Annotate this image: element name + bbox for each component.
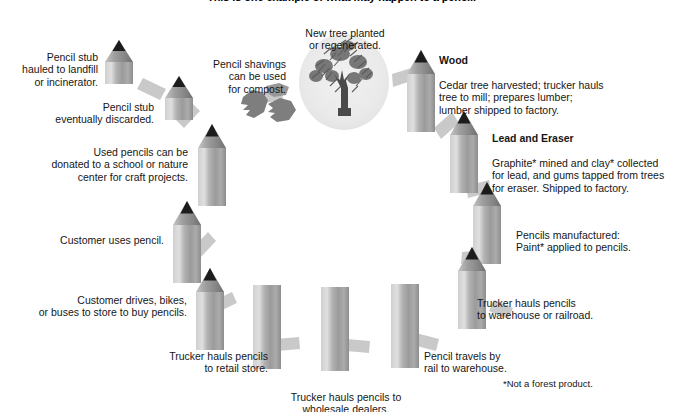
label-stub-landfill: Pencil stub hauled to landfill or incine… (6, 38, 98, 88)
label-retail-body: Trucker hauls pencils to retail store. (169, 350, 268, 375)
footnote: *Not a forest product. (503, 378, 593, 389)
pencil-icon-rail (391, 284, 419, 368)
label-retail: Trucker hauls pencils to retail store. (138, 337, 268, 375)
pencil-icon-donated (198, 124, 226, 206)
label-wood: Wood Cedar tree harvested; trucker hauls… (439, 41, 679, 117)
page-title: This is one example of what may happen t… (0, 0, 683, 3)
label-rail: Pencil travels by rail to warehouse. (424, 337, 584, 375)
label-shavings-compost: Pencil shavings can be used for compost. (186, 45, 286, 95)
pencil-icon-wood (407, 50, 435, 132)
label-lead-and-eraser: Lead and Eraser Graphite* mined and clay… (492, 119, 682, 195)
pencil-icon-wholesale (321, 287, 349, 371)
label-wood-heading: Wood (439, 54, 679, 67)
label-stub-discarded: Pencil stub eventually discarded. (30, 88, 154, 126)
label-new-tree-body: New tree planted or regenerated. (305, 27, 384, 52)
label-lead-body: Graphite* mined and clay* collected for … (492, 157, 664, 194)
label-trucker-warehouse-body: Trucker hauls pencils to warehouse or ra… (477, 297, 593, 322)
label-manufactured-body: Pencils manufactured: Paint* applied to … (516, 229, 631, 254)
label-manufactured: Pencils manufactured: Paint* applied to … (516, 216, 681, 254)
label-customer-drives-body: Customer drives, bikes, or buses to stor… (39, 294, 187, 319)
arrow-wholesale-to-retail (346, 339, 370, 353)
pencil-lifecycle-diagram: This is one example of what may happen t… (0, 0, 683, 412)
label-stub-discarded-body: Pencil stub eventually discarded. (55, 101, 154, 126)
label-lead-heading: Lead and Eraser (492, 132, 682, 145)
pencil-stub-icon-landfill (105, 40, 133, 84)
label-wholesale: Trucker hauls pencils to wholesale deale… (258, 378, 434, 412)
label-shavings-body: Pencil shavings can be used for compost. (213, 58, 286, 95)
label-trucker-warehouse: Trucker hauls pencils to warehouse or ra… (477, 284, 677, 322)
label-new-tree: New tree planted or regenerated. (276, 14, 414, 52)
label-donated: Used pencils can be donated to a school … (18, 133, 188, 183)
label-donated-body: Used pencils can be donated to a school … (51, 146, 188, 183)
label-stub-landfill-body: Pencil stub hauled to landfill or incine… (22, 51, 98, 88)
label-wood-body: Cedar tree harvested; trucker hauls tree… (439, 79, 604, 116)
label-wholesale-body: Trucker hauls pencils to wholesale deale… (291, 391, 402, 412)
label-customer-uses-body: Customer uses pencil. (60, 234, 164, 246)
label-rail-body: Pencil travels by rail to warehouse. (424, 350, 507, 375)
label-customer-drives: Customer drives, bikes, or buses to stor… (32, 281, 187, 319)
label-customer-uses: Customer uses pencil. (34, 221, 164, 246)
pencil-icon-customer-uses (173, 201, 201, 283)
